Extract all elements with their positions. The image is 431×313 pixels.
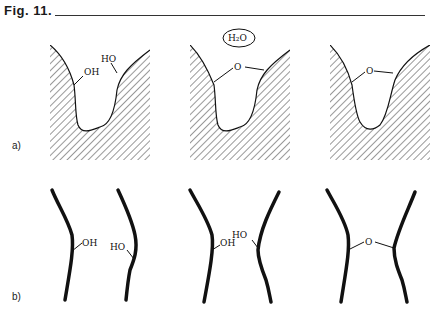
hydroxyl-label: OH <box>84 67 99 77</box>
hydroxyl-label: HO <box>110 242 125 252</box>
figure-diagram: OH HO O H₂O O OH HO OH HO O <box>0 0 431 313</box>
oxygen-bridge-label: O <box>365 237 372 247</box>
panel-a1 <box>50 45 150 160</box>
hydroxyl-label: HO <box>101 54 116 64</box>
row-b-label: b) <box>12 291 21 302</box>
oxygen-bridge-label: O <box>366 66 373 76</box>
hydroxyl-label: HO <box>232 230 247 240</box>
row-a-label: a) <box>12 140 21 151</box>
panel-a3 <box>330 45 430 160</box>
hydroxyl-label: OH <box>82 238 97 248</box>
oxygen-bridge-label: O <box>234 62 241 72</box>
water-label: H₂O <box>228 33 247 43</box>
